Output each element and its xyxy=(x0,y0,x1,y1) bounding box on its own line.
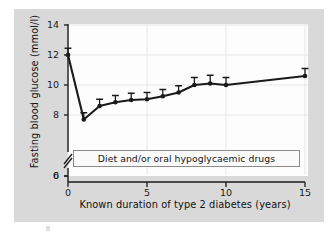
treatment-annotation-label: Diet and/or oral hypoglycaemic drugs xyxy=(98,153,275,164)
y-tick-label: 10 xyxy=(37,80,59,90)
x-tick-label: 5 xyxy=(134,188,160,198)
x-tick-label: 15 xyxy=(292,188,318,198)
y-tick-label: 6 xyxy=(37,171,59,181)
x-tick-label: 0 xyxy=(55,188,81,198)
scan-artifact xyxy=(46,226,50,231)
x-axis-title: Known duration of type 2 diabetes (years… xyxy=(50,199,320,210)
treatment-annotation-box: Diet and/or oral hypoglycaemic drugs xyxy=(73,150,300,167)
y-tick-label: 12 xyxy=(37,50,59,60)
y-tick-label: 8 xyxy=(37,110,59,120)
y-tick-label: 14 xyxy=(37,20,59,30)
chart-figure: 068101214 051015 Fasting blood glucose (… xyxy=(0,0,332,236)
y-axis-title: Fasting blood glucose (mmol/l) xyxy=(29,12,40,172)
x-tick-label: 10 xyxy=(213,188,239,198)
